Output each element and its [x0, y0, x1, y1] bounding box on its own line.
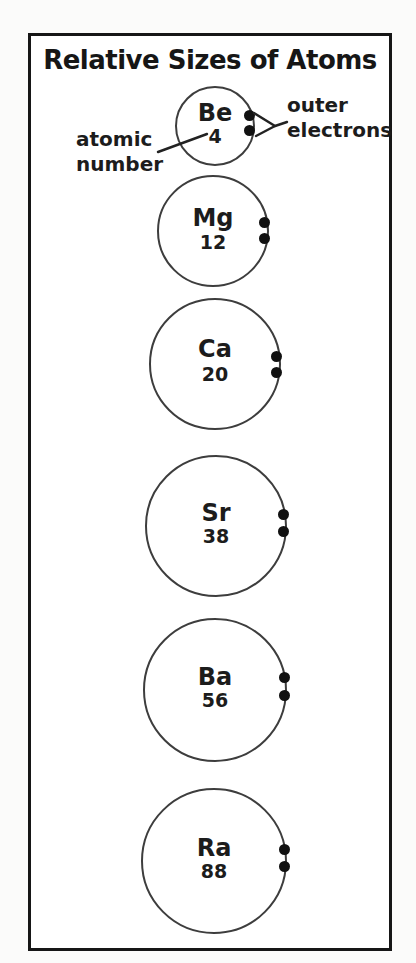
outer-electron-dot: [271, 351, 282, 362]
element-symbol: Ca: [155, 336, 275, 362]
atomic-number-label: atomic number: [76, 127, 171, 177]
outer-electron-dot: [279, 844, 290, 855]
outer-electron-dot: [278, 509, 289, 520]
atomic-number-value: 20: [155, 364, 275, 384]
atomic-number-value: 88: [154, 861, 274, 881]
outer-electron-dot: [244, 110, 255, 121]
outer-electron-dot: [259, 233, 270, 244]
atomic-number-value: 4: [155, 126, 275, 146]
outer-electron-dot: [244, 125, 255, 136]
outer-electron-dot: [278, 526, 289, 537]
outer-electron-dot: [279, 672, 290, 683]
element-symbol: Be: [155, 100, 275, 126]
outer-electron-dot: [279, 861, 290, 872]
element-symbol: Sr: [156, 500, 276, 526]
outer-electrons-label: outer electrons: [287, 93, 399, 143]
atomic-number-value: 12: [153, 232, 273, 252]
outer-electron-dot: [271, 367, 282, 378]
diagram-title: Relative Sizes of Atoms: [31, 45, 389, 75]
outer-electron-dot: [259, 217, 270, 228]
atomic-number-value: 56: [155, 690, 275, 710]
diagram-canvas: Relative Sizes of Atoms Be 4 Mg 12 Ca 20…: [0, 0, 416, 963]
atomic-number-value: 38: [156, 526, 276, 546]
outer-electron-dot: [279, 690, 290, 701]
element-symbol: Ra: [154, 835, 274, 861]
element-symbol: Ba: [155, 664, 275, 690]
element-symbol: Mg: [153, 205, 273, 231]
